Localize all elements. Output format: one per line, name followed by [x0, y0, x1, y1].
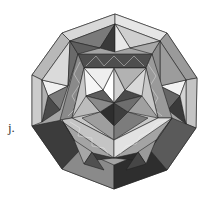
- top-band: [78, 54, 152, 68]
- polyhedron-illustration: [0, 0, 210, 201]
